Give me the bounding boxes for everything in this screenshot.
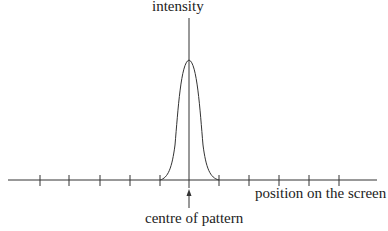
centre-label: centre of pattern — [145, 210, 243, 227]
x-axis-label: position on the screen — [255, 185, 386, 202]
y-axis-label: intensity — [152, 0, 204, 15]
centre-arrow-icon — [187, 189, 192, 196]
